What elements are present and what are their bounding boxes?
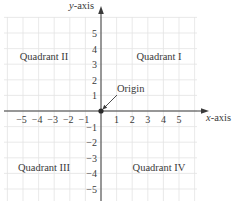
x-tick-label: 5 bbox=[177, 115, 182, 125]
quadrant-1-label: Quadrant I bbox=[136, 52, 181, 63]
y-axis-arrow-icon bbox=[98, 6, 104, 14]
x-tick-label: 4 bbox=[161, 115, 166, 125]
y-axis bbox=[98, 6, 104, 201]
x-axis-label: x-axis bbox=[206, 113, 231, 124]
y-tick-label: −2 bbox=[86, 138, 97, 148]
x-axis-label-suffix: -axis bbox=[211, 112, 231, 123]
origin-pointer bbox=[103, 95, 118, 110]
x-tick-label: −2 bbox=[63, 115, 74, 125]
y-tick-label: −4 bbox=[86, 169, 97, 179]
quadrant-4-label: Quadrant IV bbox=[133, 163, 186, 174]
y-axis-label-suffix: -axis bbox=[74, 0, 94, 11]
y-tick-label: 2 bbox=[92, 76, 97, 86]
coordinate-plane-diagram: y-axis x-axis −5−4−3−2−112345 54321−1−2−… bbox=[0, 0, 232, 214]
coordinate-plane-graphic bbox=[0, 0, 232, 214]
x-tick-label: −4 bbox=[32, 115, 43, 125]
y-tick-label: 1 bbox=[92, 91, 97, 101]
origin-point bbox=[98, 108, 103, 113]
y-tick-label: −5 bbox=[86, 185, 97, 195]
y-tick-label: −1 bbox=[86, 123, 97, 133]
origin-label: Origin bbox=[117, 84, 144, 95]
y-tick-label: 5 bbox=[92, 29, 97, 39]
x-axis bbox=[4, 108, 209, 114]
y-tick-label: 4 bbox=[92, 45, 97, 55]
x-tick-label: 3 bbox=[145, 115, 150, 125]
x-tick-label: −3 bbox=[47, 115, 58, 125]
x-tick-label: 1 bbox=[114, 115, 119, 125]
quadrant-3-label: Quadrant III bbox=[18, 163, 70, 174]
quadrant-2-label: Quadrant II bbox=[20, 52, 69, 63]
y-tick-label: 3 bbox=[92, 60, 97, 70]
x-tick-label: 2 bbox=[130, 115, 135, 125]
y-tick-label: −3 bbox=[86, 154, 97, 164]
x-tick-label: −5 bbox=[16, 115, 27, 125]
y-axis-label: y-axis bbox=[69, 1, 94, 12]
